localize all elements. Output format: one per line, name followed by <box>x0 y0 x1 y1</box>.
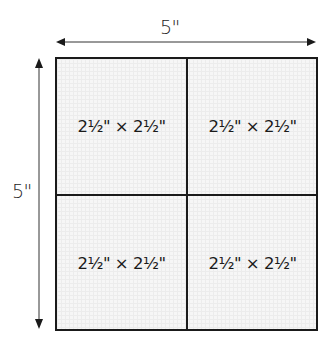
cell-label: 2½" × 2½" <box>209 254 297 273</box>
cell-bottom-left: 2½" × 2½" <box>57 196 186 331</box>
cell-label: 2½" × 2½" <box>209 117 297 136</box>
cell-top-left: 2½" × 2½" <box>57 59 186 194</box>
quilt-block-diagram: 5" 5" 2½" × 2½" 2½" × 2½" 2½" × 2½" 2½" … <box>0 0 334 352</box>
cell-bottom-right: 2½" × 2½" <box>188 196 317 331</box>
height-arrow-icon <box>35 58 43 329</box>
cell-top-right: 2½" × 2½" <box>188 59 317 194</box>
height-dimension-label: 5" <box>12 180 32 202</box>
horizontal-divider <box>57 194 316 196</box>
width-arrow-icon <box>56 38 316 46</box>
width-dimension-label: 5" <box>160 16 180 38</box>
block-square: 2½" × 2½" 2½" × 2½" 2½" × 2½" 2½" × 2½" <box>55 57 318 331</box>
cell-label: 2½" × 2½" <box>78 117 166 136</box>
cell-label: 2½" × 2½" <box>78 254 166 273</box>
